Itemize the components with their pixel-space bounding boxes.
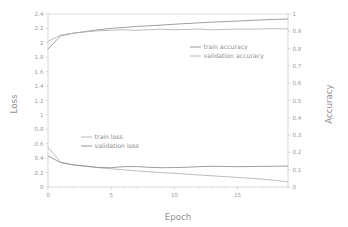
y2-tick-label: 0.3 <box>293 132 302 138</box>
legend-label: train accuracy <box>204 43 249 51</box>
y-tick-label: 0.6 <box>35 141 44 147</box>
y-tick-label: 1 <box>40 112 44 118</box>
y2-tick-label: 0.7 <box>293 63 302 69</box>
dual-axis-line-chart: 00.20.40.60.811.21.41.61.822.22.4 00.10.… <box>0 0 348 227</box>
y2-tick-label: 0.9 <box>293 28 302 34</box>
x-tick-label: 15 <box>234 192 242 198</box>
y-tick-label: 2 <box>40 40 44 46</box>
y2-tick-label: 0.1 <box>293 167 302 173</box>
y2-tick-label: 0.5 <box>293 98 302 104</box>
y-tick-label: 2.2 <box>35 25 44 31</box>
x-tick-label: 5 <box>109 192 113 198</box>
y2-tick-label: 0 <box>293 184 297 190</box>
y-tick-label: 1.8 <box>35 54 44 60</box>
y-tick-label: 0.8 <box>35 126 44 132</box>
y2-tick-label: 0.6 <box>293 80 302 86</box>
legend-label: validation accuracy <box>204 52 265 60</box>
x-tick-label: 10 <box>171 192 179 198</box>
y-axis-title-left: Loss <box>9 94 19 113</box>
y-tick-label: 1.2 <box>35 98 44 104</box>
y2-tick-label: 0.8 <box>293 46 302 52</box>
y-tick-label: 0.2 <box>35 170 44 176</box>
y-tick-label: 1.6 <box>35 69 44 75</box>
y2-tick-label: 1 <box>293 11 297 17</box>
y-axis-title-right: Accuracy <box>324 84 334 123</box>
y-tick-label: 0 <box>40 184 44 190</box>
y-tick-label: 1.4 <box>35 83 44 89</box>
chart-figure: 00.20.40.60.811.21.41.61.822.22.4 00.10.… <box>0 0 348 227</box>
x-tick-label: 0 <box>46 192 50 198</box>
y-tick-label: 0.4 <box>35 155 44 161</box>
legend-label: validation loss <box>95 142 139 149</box>
y-tick-label: 2.4 <box>35 11 44 17</box>
y2-tick-label: 0.4 <box>293 115 302 121</box>
legend-label: train loss <box>95 133 123 140</box>
x-axis-title: Epoch <box>165 212 191 222</box>
y2-tick-label: 0.2 <box>293 149 302 155</box>
